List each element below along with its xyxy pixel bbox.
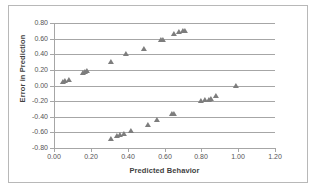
- y-tick-label: 0.00: [34, 82, 48, 90]
- y-tick-label: -0.80: [32, 144, 48, 152]
- data-point-marker: [108, 59, 114, 64]
- y-tick-label-wrap: 0.40: [0, 50, 48, 58]
- y-tick-label-wrap: 0.60: [0, 35, 48, 43]
- x-tick-label: 0.40: [113, 153, 143, 161]
- x-tick-mark: [91, 148, 92, 152]
- data-point-marker: [128, 128, 134, 133]
- y-tick-label: 0.80: [34, 19, 48, 27]
- x-tick-label: 1.00: [223, 153, 253, 161]
- data-point-marker: [84, 68, 90, 73]
- y-tick-label: -0.40: [32, 113, 48, 121]
- x-tick-mark: [54, 148, 55, 152]
- y-tick-label-wrap: -0.40: [0, 113, 48, 121]
- x-tick-mark: [128, 148, 129, 152]
- x-tick-label: 1.20: [260, 153, 290, 161]
- data-point-marker: [66, 77, 72, 82]
- y-tick-label: 0.60: [34, 35, 48, 43]
- x-tick-label: 0.60: [150, 153, 180, 161]
- data-point-marker: [123, 51, 129, 56]
- y-tick-label-wrap: 0.20: [0, 66, 48, 74]
- data-point-marker: [160, 37, 166, 42]
- y-tick-label-wrap: 0.80: [0, 19, 48, 27]
- chart-figure: Error in Prediction Predicted Behavior 0…: [0, 0, 317, 190]
- x-tick-mark: [238, 148, 239, 152]
- x-tick-label: 0.00: [39, 153, 69, 161]
- x-tick-mark: [165, 148, 166, 152]
- data-point-marker: [121, 131, 127, 136]
- y-tick-label: 0.40: [34, 50, 48, 58]
- x-tick-mark: [201, 148, 202, 152]
- data-point-marker: [154, 117, 160, 122]
- y-tick-label-wrap: 0.00: [0, 82, 48, 90]
- x-tick-label: 0.80: [186, 153, 216, 161]
- x-axis-title: Predicted Behavior: [54, 166, 275, 175]
- y-tick-label-wrap: -0.60: [0, 128, 48, 136]
- data-point-marker: [141, 46, 147, 51]
- data-point-marker: [171, 111, 177, 116]
- plot-area: [54, 23, 275, 148]
- data-point-marker: [233, 83, 239, 88]
- y-tick-label-wrap: -0.80: [0, 144, 48, 152]
- y-tick-label: -0.60: [32, 128, 48, 136]
- x-tick-label: 0.20: [76, 153, 106, 161]
- y-tick-label: 0.20: [34, 66, 48, 74]
- data-point-marker: [213, 93, 219, 98]
- data-point-marker: [182, 28, 188, 33]
- x-tick-mark: [275, 148, 276, 152]
- data-point-marker: [145, 122, 151, 127]
- y-tick-label: -0.20: [32, 97, 48, 105]
- y-tick-label-wrap: -0.20: [0, 97, 48, 105]
